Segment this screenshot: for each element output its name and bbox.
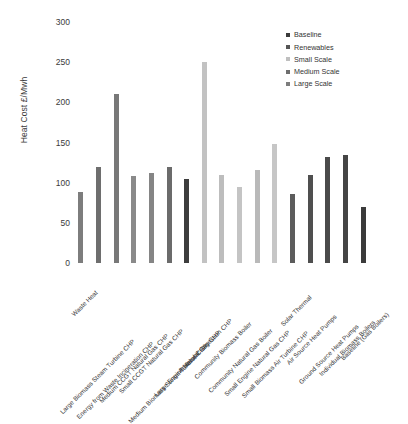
- chart-legend: BaselineRenewablesSmall ScaleMedium Scal…: [286, 29, 404, 90]
- legend-swatch-icon: [286, 82, 290, 86]
- bar-slot: [195, 22, 213, 263]
- bar-slot: [231, 22, 249, 263]
- legend-item-label: Small Scale: [294, 56, 332, 63]
- bar: [114, 94, 119, 263]
- legend-swatch-icon: [286, 70, 290, 74]
- bar: [78, 192, 83, 263]
- bar: [290, 194, 295, 263]
- y-axis-tick-label: 200: [10, 97, 70, 107]
- bar: [343, 155, 348, 263]
- bar: [325, 157, 330, 263]
- legend-item[interactable]: Baseline: [286, 29, 404, 41]
- bar-slot: [72, 22, 90, 263]
- legend-item-label: Large Scale: [294, 80, 332, 87]
- legend-item[interactable]: Small Scale: [286, 53, 404, 65]
- y-axis-tick-label: 250: [10, 57, 70, 67]
- legend-item[interactable]: Medium Scale: [286, 66, 404, 78]
- legend-swatch-icon: [286, 57, 290, 61]
- bar: [184, 179, 189, 263]
- legend-item[interactable]: Renewables: [286, 41, 404, 53]
- bar: [237, 187, 242, 263]
- bar-slot: [143, 22, 161, 263]
- legend-item-label: Medium Scale: [294, 68, 340, 75]
- x-axis-tick-labels: Waste HeatLarge Biomass Steam Turbine CH…: [72, 265, 372, 389]
- y-axis-tick-labels: 050100150200250300: [0, 0, 78, 275]
- x-axis-tick-label: Waste Heat: [94, 265, 123, 294]
- bar-slot: [90, 22, 108, 263]
- bar: [255, 170, 260, 263]
- legend-item-label: Baseline: [294, 31, 322, 38]
- bar: [131, 176, 136, 263]
- bar: [149, 173, 154, 263]
- legend-swatch-icon: [286, 33, 290, 37]
- bar: [308, 175, 313, 263]
- y-axis-tick-label: 100: [10, 178, 70, 188]
- legend-item-label: Renewables: [294, 44, 334, 51]
- bar: [202, 62, 207, 263]
- bar-slot: [160, 22, 178, 263]
- bar-slot: [213, 22, 231, 263]
- y-axis-tick-label: 0: [10, 258, 70, 268]
- bar: [361, 207, 366, 263]
- legend-swatch-icon: [286, 45, 290, 49]
- bar-slot: [178, 22, 196, 263]
- bar: [272, 144, 277, 263]
- bar: [167, 167, 172, 263]
- bar: [96, 167, 101, 263]
- legend-item[interactable]: Large Scale: [286, 78, 404, 90]
- y-axis-tick-label: 150: [10, 138, 70, 148]
- bar-slot: [107, 22, 125, 263]
- bar: [219, 175, 224, 263]
- bar-slot: [248, 22, 266, 263]
- y-axis-tick-label: 300: [10, 17, 70, 27]
- bar-slot: [125, 22, 143, 263]
- bar-slot: [266, 22, 284, 263]
- y-axis-tick-label: 50: [10, 218, 70, 228]
